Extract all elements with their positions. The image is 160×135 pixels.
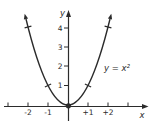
graph-canvas: -2 -1 +1 +2 4 3 2 1 y x y = x²: [0, 0, 160, 135]
origin-point: [66, 103, 71, 108]
y-tick-label-4: 4: [58, 24, 63, 33]
curve-left-arrow-icon: [24, 14, 28, 20]
y-tick-label-1: 1: [58, 81, 63, 90]
parabola-graph-figure: -2 -1 +1 +2 4 3 2 1 y x y = x²: [0, 0, 160, 135]
x-axis-label: x: [138, 110, 145, 120]
x-axis-arrow-icon: [142, 104, 149, 109]
x-tick-label-minus2: -2: [24, 108, 32, 117]
y-tick-label-3: 3: [58, 43, 63, 52]
y-tick-label-2: 2: [58, 62, 63, 71]
x-tick-label-plus2: +2: [102, 108, 113, 117]
x-tick-label-minus1: -1: [44, 108, 52, 117]
y-axis-arrow-icon: [66, 10, 71, 17]
curve-right-arrow-icon: [108, 14, 112, 20]
x-tick-label-plus1: +1: [82, 108, 93, 117]
equation-label: y = x²: [103, 63, 131, 73]
y-axis-label: y: [59, 8, 66, 18]
